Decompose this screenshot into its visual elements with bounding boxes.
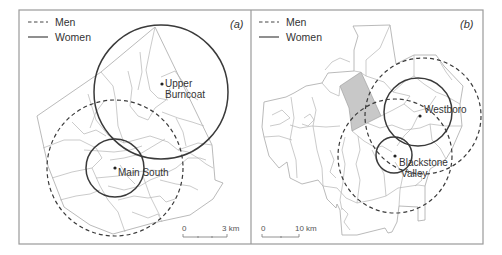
legend-men-label: Men <box>55 16 76 28</box>
city-shaded-area <box>340 72 381 131</box>
main-south-marker-icon <box>113 166 116 169</box>
legend-women-label: Women <box>286 31 322 43</box>
legend-men-label: Men <box>286 16 307 28</box>
scale-end-label: 3 km <box>222 224 240 233</box>
panel-a: Upper Burncoat Main South Men Women (a) … <box>28 16 244 238</box>
panel-a-tag: (a) <box>230 18 244 30</box>
upper-burncoat-label-line2: Burncoat <box>165 89 205 100</box>
activity-space-map-figure: Upper Burncoat Main South Men Women (a) … <box>0 0 502 255</box>
scale-start-label: 0 <box>261 224 266 233</box>
district-boundaries <box>264 25 462 230</box>
scale-bar-a <box>183 234 227 237</box>
upper-burncoat-marker-icon <box>160 82 163 85</box>
westboro-marker-icon <box>418 114 421 117</box>
panel-b-tag: (b) <box>460 18 474 30</box>
panel-b: Westboro Blackstone Valley Men Women (b)… <box>259 16 481 238</box>
blackstone-valley-label-line1: Blackstone <box>399 157 448 168</box>
city-boundary-outline <box>37 27 223 234</box>
scale-end-label: 10 km <box>295 224 317 233</box>
blackstone-valley-marker-icon <box>393 154 396 157</box>
scale-start-label: 0 <box>182 224 187 233</box>
scale-bar-b <box>262 234 299 237</box>
tract-boundaries <box>43 27 213 232</box>
blackstone-valley-label-line2: Valley <box>401 168 428 179</box>
westboro-label: Westboro <box>424 104 467 115</box>
upper-burncoat-label-line1: Upper <box>165 78 193 89</box>
main-south-label: Main South <box>118 167 169 178</box>
legend-women-label: Women <box>55 31 91 43</box>
